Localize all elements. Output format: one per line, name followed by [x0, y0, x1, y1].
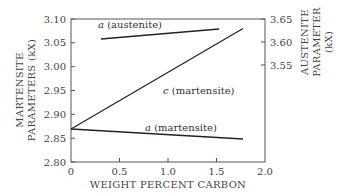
svg-text:2.0: 2.0 — [257, 166, 273, 177]
label-a-austenite: a (austenite) — [98, 19, 162, 30]
svg-text:3.55: 3.55 — [270, 60, 292, 71]
left-y-tick-labels: 2.80 2.85 2.90 2.95 3.00 3.05 3.10 — [44, 14, 66, 168]
svg-text:1.5: 1.5 — [209, 166, 225, 177]
right-y-axis-title: AUSTENITE PARAMETER (kX) — [299, 7, 334, 77]
svg-text:2.95: 2.95 — [44, 85, 66, 96]
svg-text:(kX): (kX) — [323, 31, 334, 53]
right-y-tick-labels: 3.65 3.60 3.55 — [270, 14, 292, 71]
label-a-martensite: a (martensite) — [145, 122, 217, 133]
svg-text:0: 0 — [68, 166, 74, 177]
svg-text:3.00: 3.00 — [44, 61, 66, 72]
svg-text:PARAMETERS (kX): PARAMETERS (kX) — [26, 39, 37, 141]
svg-text:0.5: 0.5 — [112, 166, 128, 177]
series-line-c-martensite — [71, 29, 243, 130]
x-ticks — [120, 158, 217, 162]
series-line-a-austenite — [101, 29, 219, 39]
svg-text:2.80: 2.80 — [44, 157, 66, 168]
svg-text:1.0: 1.0 — [160, 166, 176, 177]
svg-text:3.05: 3.05 — [44, 37, 66, 48]
svg-text:PARAMETER: PARAMETER — [311, 7, 322, 77]
chart: 2.80 2.85 2.90 2.95 3.00 3.05 3.10 3.65 … — [0, 0, 350, 193]
label-c-martensite: c (martensite) — [163, 85, 235, 96]
x-axis-title: WEIGHT PERCENT CARBON — [90, 179, 246, 190]
left-y-ticks — [71, 19, 75, 162]
svg-text:MARTENSITE: MARTENSITE — [14, 52, 25, 127]
svg-text:3.60: 3.60 — [270, 37, 292, 48]
x-tick-labels: 0 0.5 1.0 1.5 2.0 — [68, 166, 273, 177]
svg-text:2.85: 2.85 — [44, 133, 66, 144]
svg-text:AUSTENITE: AUSTENITE — [299, 9, 310, 76]
svg-text:3.10: 3.10 — [44, 14, 66, 25]
svg-text:3.65: 3.65 — [270, 14, 292, 25]
left-y-axis-title: MARTENSITE PARAMETERS (kX) — [14, 39, 37, 141]
svg-text:2.90: 2.90 — [44, 109, 66, 120]
right-y-ticks — [261, 19, 265, 65]
